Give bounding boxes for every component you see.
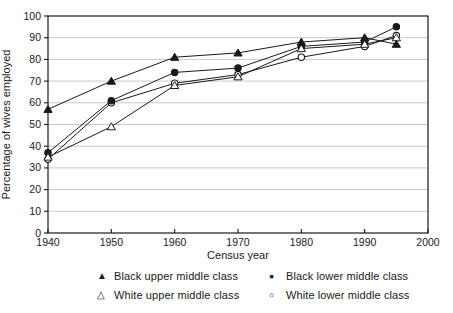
legend-label: White lower middle class	[286, 287, 409, 303]
legend: ▲ Black upper middle class ● Black lower…	[0, 268, 453, 303]
triangle-open-icon: △	[97, 287, 114, 303]
svg-text:80: 80	[29, 53, 41, 65]
svg-text:90: 90	[29, 31, 41, 43]
triangle-filled-icon: ▲	[97, 268, 114, 284]
svg-text:60: 60	[29, 96, 41, 108]
svg-text:1970: 1970	[226, 236, 250, 248]
legend-grid: ▲ Black upper middle class ● Black lower…	[97, 268, 453, 303]
svg-text:40: 40	[29, 140, 41, 152]
legend-item-white-lower-middle-class: ○ White lower middle class	[269, 287, 453, 303]
employment-line-chart-figure: 0102030405060708090100194019501960197019…	[0, 0, 453, 313]
legend-item-black-upper-middle-class: ▲ Black upper middle class	[97, 268, 269, 284]
series-line-1	[48, 38, 396, 157]
series-markers-1	[44, 34, 401, 160]
svg-text:1940: 1940	[36, 236, 60, 248]
svg-text:1960: 1960	[163, 236, 187, 248]
x-axis: 1940195019601970198019902000	[36, 229, 440, 248]
legend-item-black-lower-middle-class: ● Black lower middle class	[269, 268, 453, 284]
circle-filled-icon: ●	[269, 268, 286, 284]
svg-text:10: 10	[29, 205, 41, 217]
legend-label: Black upper middle class	[114, 268, 238, 284]
legend-item-white-upper-middle-class: △ White upper middle class	[97, 287, 269, 303]
x-axis-title: Census year	[207, 249, 269, 261]
series-line-0	[48, 38, 396, 110]
svg-text:1980: 1980	[290, 236, 314, 248]
y-axis: 0102030405060708090100	[23, 10, 48, 239]
gridlines	[48, 38, 428, 212]
legend-label: Black lower middle class	[286, 268, 408, 284]
y-axis-title: Percentage of wives employed	[0, 50, 12, 200]
svg-text:100: 100	[23, 10, 41, 22]
svg-text:70: 70	[29, 75, 41, 87]
svg-text:1990: 1990	[353, 236, 377, 248]
svg-text:20: 20	[29, 183, 41, 195]
svg-text:2000: 2000	[416, 236, 440, 248]
svg-text:1950: 1950	[100, 236, 124, 248]
svg-text:50: 50	[29, 118, 41, 130]
series-markers-3	[45, 32, 400, 162]
legend-label: White upper middle class	[114, 287, 239, 303]
svg-text:30: 30	[29, 161, 41, 173]
circle-open-icon: ○	[269, 287, 286, 303]
chart-canvas: 0102030405060708090100194019501960197019…	[0, 0, 453, 266]
